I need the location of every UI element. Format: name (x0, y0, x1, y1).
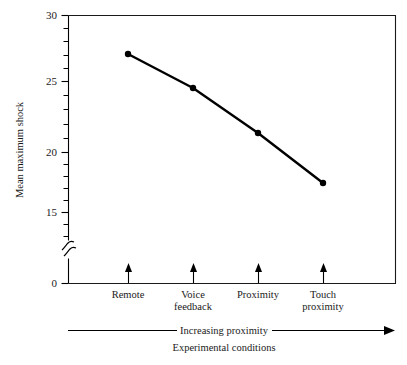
category-label-feedback: feedback (174, 301, 213, 312)
category-label-proximity: Proximity (237, 289, 280, 300)
y-tick-label-0: 0 (52, 277, 58, 289)
plot-frame (69, 16, 396, 284)
category-arrow-proximity (255, 263, 262, 283)
category-arrow-touch-proximity (320, 263, 327, 283)
y-tick-label-15: 15 (46, 206, 58, 218)
category-arrow-remote (125, 263, 132, 283)
y-tick-label-25: 25 (46, 75, 58, 87)
data-point-remote (125, 51, 131, 57)
data-point-voice-feedback (190, 85, 196, 91)
category-label-touch-proximity: proximity (302, 301, 344, 312)
data-point-touch-proximity (320, 180, 326, 186)
data-series-line (128, 54, 323, 183)
category-arrow-voice-feedback (190, 263, 197, 283)
category-label-touch: Touch (310, 289, 337, 300)
data-points (125, 51, 326, 186)
line-chart-svg: 30 25 20 15 0 Mean maximum shock (0, 0, 407, 365)
y-axis-title: Mean maximum shock (14, 101, 25, 198)
chart-figure: 30 25 20 15 0 Mean maximum shock (0, 0, 407, 365)
y-tick-label-20: 20 (46, 146, 58, 158)
category-label-remote: Remote (112, 289, 145, 300)
category-label-voice: Voice (181, 289, 205, 300)
data-point-proximity (255, 130, 261, 136)
y-axis-minor-ticks (64, 29, 69, 237)
axis-break-icon (62, 241, 76, 256)
y-tick-label-30: 30 (46, 9, 58, 21)
increasing-proximity-label: Increasing proximity (180, 325, 269, 336)
x-axis-title: Experimental conditions (173, 342, 276, 353)
right-arrow-icon (384, 326, 395, 335)
